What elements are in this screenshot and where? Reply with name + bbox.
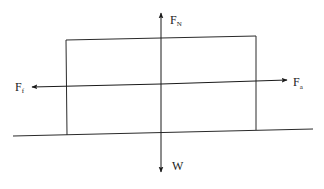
normal-force-label: FN	[170, 13, 182, 28]
applied-force-arrow	[161, 80, 287, 84]
weight-label: W	[172, 159, 184, 173]
ground-line	[13, 129, 313, 136]
applied-force-label: Fa	[293, 75, 304, 91]
friction-force-arrow	[32, 84, 161, 87]
free-body-diagram: FN W Ff Fa	[0, 0, 324, 189]
friction-force-label: Ff	[15, 80, 25, 95]
